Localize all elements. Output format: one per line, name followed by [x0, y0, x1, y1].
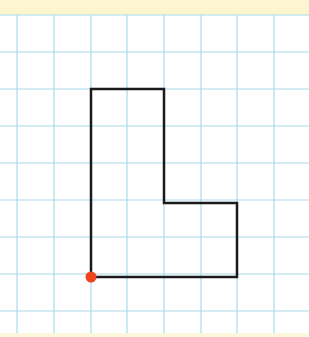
- grid-diagram: [0, 0, 309, 337]
- top-band: [0, 0, 309, 15]
- red-start-point: [86, 272, 97, 283]
- grid-paper: [0, 15, 309, 333]
- bottom-band: [0, 333, 309, 337]
